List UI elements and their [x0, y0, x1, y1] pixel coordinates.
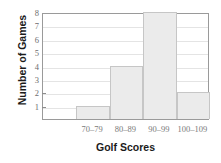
bar [177, 92, 210, 119]
y-axis-tick-label: 8 [27, 9, 39, 17]
y-axis-tick-label: 2 [27, 89, 39, 97]
bar [143, 12, 176, 119]
x-axis-tick-label: 70–79 [75, 124, 108, 134]
plot-area [42, 13, 209, 120]
x-axis-tick-label: 90–99 [142, 124, 175, 134]
bar [76, 106, 109, 119]
histogram-chart: Number of Games 12345678 70–7980–8990–99… [0, 0, 221, 163]
y-axis-tick-label: 4 [27, 63, 39, 71]
y-axis-tick-label: 5 [27, 49, 39, 57]
y-axis-tick-label: 7 [27, 22, 39, 30]
y-axis-tick-labels: 12345678 [26, 13, 39, 120]
y-axis-tick-mark [42, 93, 46, 94]
y-axis-tick-label: 3 [27, 76, 39, 84]
y-axis-tick-mark [42, 107, 46, 108]
bar [110, 66, 143, 120]
x-axis-tick-label: 100–109 [176, 124, 209, 134]
x-axis-tick-label: 80–89 [109, 124, 142, 134]
y-axis-tick-label: 1 [27, 103, 39, 111]
bar-series [43, 14, 208, 119]
x-axis-title: Golf Scores [42, 141, 209, 153]
y-axis-tick-label: 6 [27, 36, 39, 44]
x-axis-tick-labels: 70–7980–8990–99100–109 [42, 124, 209, 136]
